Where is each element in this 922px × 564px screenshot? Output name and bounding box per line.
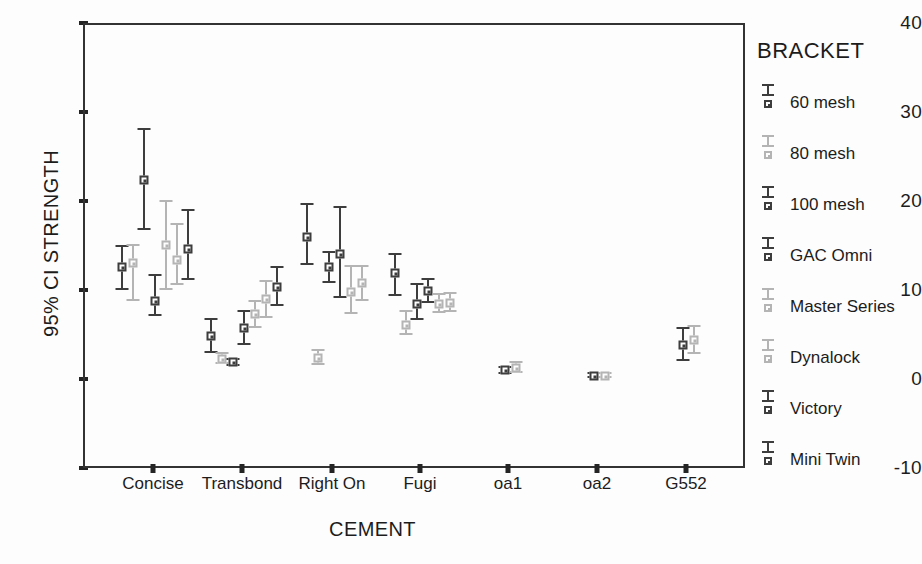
x-tick-mark (330, 464, 335, 473)
data-point-marker (401, 320, 410, 329)
error-bar (204, 318, 218, 354)
data-point-center (350, 291, 353, 294)
error-bar-cap (138, 128, 151, 130)
error-bar (226, 358, 240, 366)
x-tick-mark (506, 464, 511, 473)
data-point-marker (689, 336, 698, 345)
legend-square-center (768, 104, 770, 106)
error-bar-cap (432, 311, 445, 313)
error-bar (300, 203, 314, 265)
legend-item[interactable]: Mini Twin (757, 439, 922, 473)
data-point-marker (207, 331, 216, 340)
legend-label: 80 mesh (790, 144, 855, 164)
data-point-center (405, 324, 408, 327)
data-point-center (438, 303, 441, 306)
x-tick-label: Transbond (202, 474, 283, 494)
error-bar-cap (399, 333, 412, 335)
legend-item[interactable]: Master Series (757, 286, 922, 320)
legend-cap-bottom (762, 400, 774, 402)
error-bar-cap (443, 310, 456, 312)
data-point-center (394, 273, 397, 276)
legend-cap-bottom (762, 349, 774, 351)
y-axis-label: 95% CI STRENGTH (40, 129, 63, 359)
data-point-marker (313, 353, 322, 362)
legend-marker-icon (759, 439, 777, 469)
data-point-marker (390, 269, 399, 278)
data-point-center (244, 328, 247, 331)
legend-square-center (768, 308, 770, 310)
error-bar-cap (410, 318, 423, 320)
error-bar (181, 209, 195, 280)
data-point-center (328, 267, 331, 270)
error-bar-cap (160, 200, 173, 202)
legend-item[interactable]: GAC Omni (757, 235, 922, 269)
legend-marker-icon (759, 337, 777, 367)
x-tick-mark (151, 464, 156, 473)
data-point-marker (151, 296, 160, 305)
error-bar-cap (238, 343, 251, 345)
legend-label: Mini Twin (790, 450, 861, 470)
error-bar (443, 292, 457, 312)
legend-square (764, 304, 772, 312)
error-bar (270, 266, 284, 306)
legend-square (764, 457, 772, 465)
error-bar-cap (271, 304, 284, 306)
legend-marker-icon (759, 286, 777, 316)
x-tick-mark (684, 464, 689, 473)
chart-canvas: 95% CI STRENGTH 403020100-10 ConciseTran… (0, 0, 922, 564)
error-bar-cap (676, 359, 689, 361)
data-point-center (449, 302, 452, 305)
error-bar-cap (333, 206, 346, 208)
error-bar-stem (154, 274, 156, 316)
legend-label: Victory (790, 399, 842, 419)
legend-square-center (768, 410, 770, 412)
error-bar-stem (176, 223, 178, 284)
x-tick-label: Concise (122, 474, 183, 494)
legend-item[interactable]: Victory (757, 388, 922, 422)
data-point-center (188, 249, 191, 252)
legend-square-center (768, 257, 770, 259)
legend-square (764, 202, 772, 210)
legend-item[interactable]: 80 mesh (757, 133, 922, 167)
data-point-center (693, 340, 696, 343)
data-point-center (155, 300, 158, 303)
error-bar-cap (388, 294, 401, 296)
legend-marker-icon (759, 235, 777, 265)
data-point-center (682, 344, 685, 347)
legend-square-center (768, 461, 770, 463)
data-point-center (144, 179, 147, 182)
error-bar-cap (311, 363, 324, 365)
legend-cap-bottom (762, 196, 774, 198)
legend-cap-bottom (762, 451, 774, 453)
legend-item[interactable]: 60 mesh (757, 82, 922, 116)
error-bar-cap (687, 325, 700, 327)
data-point-center (593, 375, 596, 378)
error-bar-cap (127, 244, 140, 246)
x-tick-label: G552 (665, 474, 707, 494)
data-point-center (133, 262, 136, 265)
data-point-center (277, 286, 280, 289)
error-bar-cap (149, 314, 162, 316)
error-bar-cap (205, 318, 218, 320)
error-bar-cap (388, 253, 401, 255)
data-point-center (211, 335, 214, 338)
legend-marker-icon (759, 184, 777, 214)
error-bar-stem (132, 244, 134, 301)
error-bar-cap (300, 263, 313, 265)
data-point-center (427, 291, 430, 294)
error-bar-cap (260, 316, 273, 318)
y-tick-label: 0 (850, 368, 922, 390)
legend-item[interactable]: Dynalock (757, 337, 922, 371)
legend-cap-bottom (762, 94, 774, 96)
error-bar-cap (300, 203, 313, 205)
legend-cap-bottom (762, 298, 774, 300)
legend-marker-icon (759, 388, 777, 418)
legend-item[interactable]: 100 mesh (757, 184, 922, 218)
x-tick-label: oa2 (583, 474, 611, 494)
x-tick-mark (595, 464, 600, 473)
legend-square-center (768, 206, 770, 208)
x-axis-label: CEMENT (0, 518, 745, 541)
data-point-center (604, 375, 607, 378)
error-bar (126, 244, 140, 301)
legend-square (764, 355, 772, 363)
